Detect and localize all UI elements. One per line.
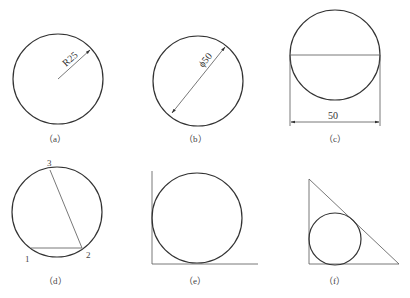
diagram-canvas: R25 （a） ϕ50 （b） 50 （c） 1 2 3 （d） （e） (0, 0, 410, 298)
diameter-line (172, 47, 225, 113)
caption-d: （d） (44, 276, 67, 286)
circle-e (152, 173, 242, 263)
panel-d: 1 2 3 （d） (12, 158, 102, 286)
caption-e: （e） (184, 276, 206, 286)
caption-f: （f） (324, 276, 345, 286)
caption-b: （b） (184, 134, 207, 144)
point-label-1: 1 (25, 254, 30, 264)
radius-label: R25 (60, 49, 80, 68)
inscribed-circle (309, 213, 361, 265)
panel-b: ϕ50 （b） (153, 36, 243, 144)
panel-a: R25 （a） (13, 34, 103, 144)
caption-a: （a） (44, 134, 66, 144)
circle-d (12, 167, 102, 257)
dimension-label: 50 (328, 110, 338, 121)
chord-3-2 (50, 170, 82, 248)
panel-c: 50 （c） (290, 10, 380, 144)
point-label-3: 3 (47, 158, 52, 168)
caption-c: （c） (324, 134, 346, 144)
diameter-label: ϕ50 (196, 50, 214, 69)
panel-f: （f） (309, 179, 399, 286)
panel-e: （e） (152, 171, 258, 286)
point-label-2: 2 (86, 250, 91, 260)
